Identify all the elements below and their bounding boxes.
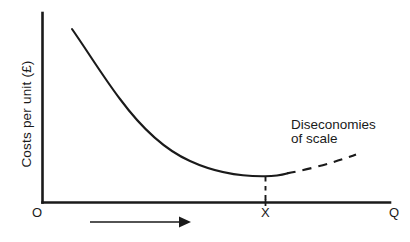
diseconomies-annotation-line-1: Diseconomies (291, 118, 403, 132)
diseconomies-annotation-line-2: of scale (291, 132, 403, 146)
y-axis-title: Costs per unit (£) (17, 34, 37, 194)
x-axis-tick-label-x: X (261, 206, 270, 219)
average-cost-curve-dashed (287, 155, 356, 174)
diseconomies-of-scale-annotation: Diseconomies of scale (291, 118, 403, 146)
increasing-output-arrow-head (179, 217, 191, 228)
x-axis-end-label-q: Q (389, 206, 399, 219)
axis-origin-label: O (32, 206, 42, 219)
average-cost-curve-solid (72, 29, 287, 176)
cost-curve-figure: Costs per unit (£) O X Q Diseconomies of… (0, 0, 410, 242)
